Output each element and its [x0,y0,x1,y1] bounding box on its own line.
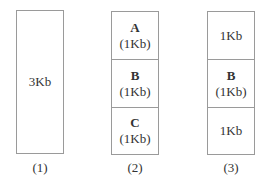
segment-b: B (1Kb) [208,59,254,107]
segment-size: (1Kb) [119,84,150,100]
segment-name: A [130,20,139,36]
segment-name: B [131,68,140,84]
segment-free-top: 1Kb [208,12,254,59]
memory-block-1: 3Kb [16,10,64,154]
segment-size: 3Kb [29,74,51,90]
segment-b: B (1Kb) [112,59,158,107]
segment-a: A (1Kb) [112,12,158,59]
segment-size: (1Kb) [119,131,150,147]
segment-free-bottom: 1Kb [208,107,254,154]
segment-c: C (1Kb) [112,107,158,154]
memory-block-3: 1Kb B (1Kb) 1Kb [207,11,255,155]
segment-size: 1Kb [220,28,242,44]
segment-size: (1Kb) [119,36,150,52]
segment-name: C [130,115,139,131]
block-caption-2: (2) [111,160,159,176]
segment-3kb: 3Kb [17,11,63,153]
segment-name: B [227,68,236,84]
block-caption-1: (1) [16,160,64,176]
segment-size: (1Kb) [215,84,246,100]
block-caption-3: (3) [207,160,255,176]
memory-block-2: A (1Kb) B (1Kb) C (1Kb) [111,11,159,155]
segment-size: 1Kb [220,123,242,139]
